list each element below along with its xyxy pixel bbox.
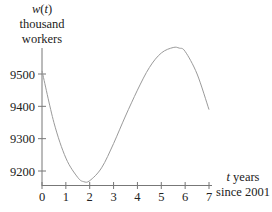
y-tick-label: 9500: [10, 68, 35, 82]
y-tick-label: 9400: [10, 100, 35, 114]
x-tick-label: 3: [110, 190, 116, 204]
x-axis-label-var: t years: [227, 170, 260, 184]
y-axis-label-unit: thousand: [19, 17, 65, 31]
x-tick-label: 7: [206, 190, 212, 204]
y-tick-label: 9300: [10, 132, 35, 146]
y-tick-label: 9200: [10, 165, 35, 179]
x-tick-label: 4: [134, 190, 141, 204]
x-tick-label: 5: [158, 190, 164, 204]
y-axis-label-var: w(t): [32, 2, 52, 16]
chart: w(t) thousand workers 9200930094009500 0…: [0, 0, 272, 212]
x-tick-label: 1: [63, 190, 69, 204]
y-axis-label-workers: workers: [22, 32, 62, 46]
x-tick-label: 0: [39, 190, 45, 204]
x-tick-label: 6: [182, 190, 188, 204]
x-tick-label: 2: [87, 190, 93, 204]
data-line-w: [42, 47, 209, 182]
x-axis-label-since: since 2001: [216, 185, 270, 199]
y-ticks: 9200930094009500: [10, 68, 46, 179]
